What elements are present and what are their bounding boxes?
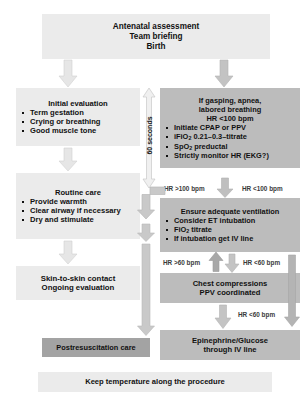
routine-care-list: Provide warmth Clear airway if necessary… xyxy=(21,197,135,225)
chest-compressions-line-1: Chest compressions xyxy=(193,279,268,288)
list-item: Term gestation xyxy=(21,108,135,117)
postresuscitation-care-label: Postresuscitation care xyxy=(56,343,135,352)
label-60-seconds: 60 seconds xyxy=(146,109,153,163)
skin-to-skin-line-1: Skin-to-skin contact xyxy=(41,274,116,284)
skin-to-skin-line-2: Ongoing evaluation xyxy=(42,283,115,293)
routine-care-title: Routine care xyxy=(21,188,135,197)
list-item: FiO2 titrate xyxy=(165,225,295,234)
ventilation-title: Ensure adequate ventilation xyxy=(165,207,295,216)
node-epinephrine-glucose: Epinephrine/Glucose through IV line xyxy=(160,330,300,360)
spo2-rest: preductal xyxy=(192,142,227,151)
arrow-top-to-distress xyxy=(214,60,234,88)
label-hr-lt-100: HR <100 bpm xyxy=(242,185,283,192)
node-routine-care: Routine care Provide warmth Clear airway… xyxy=(16,173,140,239)
node-respiratory-distress: If gasping, apnea, labored breathing HR … xyxy=(160,88,300,168)
antenatal-line-2: Team briefing xyxy=(129,32,182,42)
node-skin-to-skin-contact: Skin-to-skin contact Ongoing evaluation xyxy=(16,266,140,300)
list-item: Good muscle tone xyxy=(21,126,135,135)
antenatal-line-3: Birth xyxy=(146,42,165,52)
chest-compressions-line-2: PPV coordinated xyxy=(200,288,261,297)
ifio2-rest: 0.21–0.3–titrate xyxy=(191,132,246,141)
label-hr-lt-60-upper: HR <60 bpm xyxy=(243,259,280,266)
ventilation-item-iv: If intubation get IV line xyxy=(174,234,253,243)
initial-evaluation-list: Term gestation Crying or breathing Good … xyxy=(21,108,135,136)
epinephrine-line-2: through IV line xyxy=(203,345,256,354)
list-item: If intubation get IV line xyxy=(165,234,295,243)
arrow-hr-gt-60-up xyxy=(208,252,224,272)
distress-item-cpap: Initiate CPAP or PPV xyxy=(174,123,246,132)
list-item: Clear airway if necessary xyxy=(21,206,135,215)
arrow-chest-compressions-to-epinephrine xyxy=(214,305,232,329)
node-keep-temperature: Keep temperature along the procedure xyxy=(38,372,272,392)
epinephrine-line-1: Epinephrine/Glucose xyxy=(192,336,268,345)
label-hr-gt-60: HR >60 bpm xyxy=(163,259,200,266)
distress-line-2: labored breathing xyxy=(165,105,295,114)
node-postresuscitation-care: Postresuscitation care xyxy=(42,338,150,357)
arrow-ventilation-to-chest-compressions xyxy=(224,254,240,273)
distress-line-3: HR <100 bpm xyxy=(165,114,295,123)
label-hr-lt-60-lower: HR <60 bpm xyxy=(238,311,275,318)
list-item: Dry and stimulate xyxy=(21,215,135,224)
list-item: iFiO2 0.21–0.3–titrate xyxy=(165,132,295,141)
arrow-routine-care-to-skin-to-skin xyxy=(58,241,78,265)
list-item: Consider ET intubation xyxy=(165,216,295,225)
ventilation-item-fio2: FiO xyxy=(174,225,186,234)
arrow-distress-to-ventilation xyxy=(216,178,234,198)
arrow-right-rail-down xyxy=(284,255,300,327)
keep-temperature-label: Keep temperature along the procedure xyxy=(85,377,225,386)
distress-item-monitor: Strictly monitor HR (EKG?) xyxy=(174,151,269,160)
ventilation-list: Consider ET intubation FiO2 titrate If i… xyxy=(165,216,295,244)
list-item: Crying or breathing xyxy=(21,117,135,126)
node-antenatal-assessment: Antenatal assessment Team briefing Birth xyxy=(42,14,270,59)
list-item: Provide warmth xyxy=(21,197,135,206)
fio2-rest: titrate xyxy=(189,225,212,234)
initial-evaluation-title: Initial evaluation xyxy=(21,99,135,108)
list-item: SpO2 preductal xyxy=(165,142,295,151)
arrow-top-to-initial-evaluation xyxy=(58,60,78,88)
distress-item-spo2: SpO xyxy=(174,142,189,151)
node-chest-compressions: Chest compressions PPV coordinated xyxy=(160,273,300,303)
distress-line-1: If gasping, apnea, xyxy=(165,96,295,105)
arrow-left-column-continue xyxy=(136,224,156,242)
distress-item-ifio2: iFiO xyxy=(174,132,188,141)
label-hr-gt-100: HR >100 bpm xyxy=(164,185,205,192)
arrow-initial-evaluation-to-routine-care xyxy=(58,148,78,172)
list-item: Strictly monitor HR (EKG?) xyxy=(165,151,295,160)
antenatal-line-1: Antenatal assessment xyxy=(113,22,199,32)
ventilation-item-et: Consider ET intubation xyxy=(174,216,255,225)
distress-list: Initiate CPAP or PPV iFiO2 0.21–0.3–titr… xyxy=(165,123,295,160)
node-initial-evaluation: Initial evaluation Term gestation Crying… xyxy=(16,88,140,146)
node-ensure-adequate-ventilation: Ensure adequate ventilation Consider ET … xyxy=(160,198,300,252)
flowchart-canvas: Antenatal assessment Team briefing Birth… xyxy=(0,0,308,400)
arrow-left-column-to-postresuscitation xyxy=(136,244,156,336)
list-item: Initiate CPAP or PPV xyxy=(165,123,295,132)
